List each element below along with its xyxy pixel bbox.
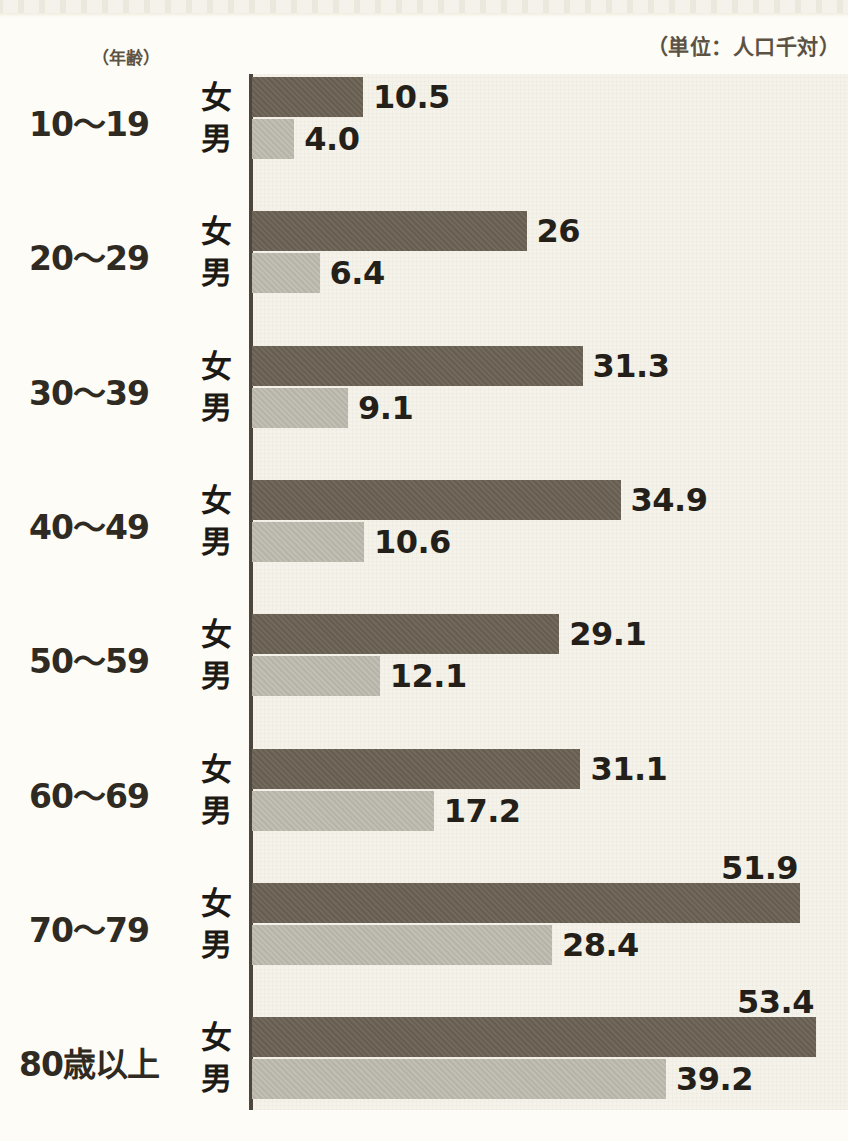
unit-label: （単位：人口千対） xyxy=(647,30,841,60)
bar-value-label: 26 xyxy=(537,212,581,250)
decorative-top-strip-shadow xyxy=(0,13,848,17)
bar-value-label: 17.2 xyxy=(444,792,521,830)
category-label: 10～19 xyxy=(0,98,178,146)
bar-value-label: 34.9 xyxy=(631,481,708,519)
series-letter-male: 男 xyxy=(196,1057,236,1099)
series-letter-male: 男 xyxy=(196,520,236,562)
chart-group: 20～29女男266.4 xyxy=(0,211,848,293)
series-letters: 女男 xyxy=(196,1017,236,1099)
bar-male: 39.2 xyxy=(252,1059,666,1099)
bar-value-label: 51.9 xyxy=(721,849,798,887)
bar-row: 53.4 xyxy=(252,1017,848,1057)
series-letter-female: 女 xyxy=(196,211,236,251)
bar-male: 28.4 xyxy=(252,925,552,965)
bar-value-label: 29.1 xyxy=(569,615,646,653)
bar-row: 29.1 xyxy=(252,614,848,654)
bar-row: 51.9 xyxy=(252,883,848,923)
bar-male: 4.0 xyxy=(252,119,294,159)
series-letters: 女男 xyxy=(196,77,236,159)
chart-group: 40～49女男34.910.6 xyxy=(0,480,848,562)
bar-male: 12.1 xyxy=(252,656,380,696)
bar-male: 6.4 xyxy=(252,253,320,293)
chart-group: 70～79女男51.928.4 xyxy=(0,883,848,965)
bar-row: 17.2 xyxy=(252,791,848,831)
series-letters: 女男 xyxy=(196,749,236,831)
category-label: 70～79 xyxy=(0,904,178,952)
category-label: 40～49 xyxy=(0,501,178,549)
bar-row: 10.6 xyxy=(252,522,848,562)
series-letter-female: 女 xyxy=(196,77,236,117)
bar-value-label: 6.4 xyxy=(330,254,385,292)
age-axis-label: （年齢） xyxy=(92,44,160,69)
series-letter-female: 女 xyxy=(196,480,236,520)
series-letter-male: 男 xyxy=(196,923,236,965)
bar-female: 51.9 xyxy=(252,883,800,923)
category-label: 30～39 xyxy=(0,367,178,415)
series-letters: 女男 xyxy=(196,883,236,965)
category-label: 60～69 xyxy=(0,770,178,818)
bar-row: 12.1 xyxy=(252,656,848,696)
bar-female: 31.3 xyxy=(252,346,583,386)
bar-row: 31.1 xyxy=(252,749,848,789)
bar-value-label: 31.3 xyxy=(593,347,670,385)
bar-row: 6.4 xyxy=(252,253,848,293)
chart-group: 60～69女男31.117.2 xyxy=(0,749,848,831)
bar-female: 10.5 xyxy=(252,77,363,117)
bar-female: 34.9 xyxy=(252,480,621,520)
chart-group: 30～39女男31.39.1 xyxy=(0,346,848,428)
series-letter-female: 女 xyxy=(196,614,236,654)
series-letter-male: 男 xyxy=(196,386,236,428)
decorative-top-strip xyxy=(0,0,848,14)
bar-male: 9.1 xyxy=(252,388,348,428)
series-letter-female: 女 xyxy=(196,346,236,386)
series-letter-female: 女 xyxy=(196,1017,236,1057)
bar-value-label: 4.0 xyxy=(304,120,359,158)
bar-value-label: 10.6 xyxy=(374,523,451,561)
series-letter-female: 女 xyxy=(196,749,236,789)
series-letter-male: 男 xyxy=(196,789,236,831)
bar-row: 9.1 xyxy=(252,388,848,428)
chart-group: 80歳以上女男53.439.2 xyxy=(0,1017,848,1099)
category-label: 20～29 xyxy=(0,232,178,280)
series-letter-male: 男 xyxy=(196,251,236,293)
series-letter-male: 男 xyxy=(196,117,236,159)
bar-value-label: 28.4 xyxy=(562,926,639,964)
bar-row: 26 xyxy=(252,211,848,251)
bar-row: 31.3 xyxy=(252,346,848,386)
bar-male: 10.6 xyxy=(252,522,364,562)
bar-value-label: 10.5 xyxy=(373,78,450,116)
category-label: 80歳以上 xyxy=(0,1038,178,1086)
chart-group: 50～59女男29.112.1 xyxy=(0,614,848,696)
series-letters: 女男 xyxy=(196,614,236,696)
bar-female: 29.1 xyxy=(252,614,559,654)
bar-row: 4.0 xyxy=(252,119,848,159)
series-letter-female: 女 xyxy=(196,883,236,923)
bar-male: 17.2 xyxy=(252,791,434,831)
series-letter-male: 男 xyxy=(196,654,236,696)
bar-value-label: 9.1 xyxy=(358,389,413,427)
bar-value-label: 53.4 xyxy=(737,983,814,1021)
bar-row: 34.9 xyxy=(252,480,848,520)
series-letters: 女男 xyxy=(196,480,236,562)
bar-female: 26 xyxy=(252,211,527,251)
bar-female: 31.1 xyxy=(252,749,580,789)
bar-row: 39.2 xyxy=(252,1059,848,1099)
series-letters: 女男 xyxy=(196,346,236,428)
bar-value-label: 31.1 xyxy=(590,750,667,788)
bar-value-label: 12.1 xyxy=(390,657,467,695)
bar-value-label: 39.2 xyxy=(676,1060,753,1098)
bar-row: 28.4 xyxy=(252,925,848,965)
bar-female: 53.4 xyxy=(252,1017,816,1057)
series-letters: 女男 xyxy=(196,211,236,293)
chart-group: 10～19女男10.54.0 xyxy=(0,77,848,159)
bar-row: 10.5 xyxy=(252,77,848,117)
category-label: 50～59 xyxy=(0,635,178,683)
